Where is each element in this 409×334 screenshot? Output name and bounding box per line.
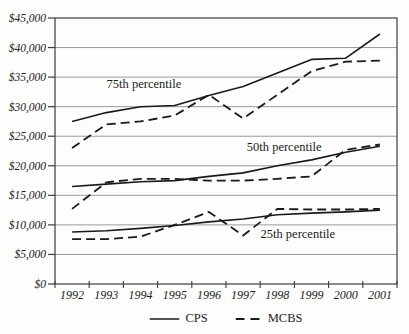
x-tick-label: 1995 — [163, 288, 187, 303]
y-tick-label: $20,000 — [9, 160, 46, 172]
x-tick-label: 1998 — [265, 288, 289, 303]
legend: CPS MCBS — [150, 311, 303, 326]
x-tick-label: 1997 — [231, 288, 255, 303]
mcbs-dashed-line-swatch — [236, 315, 262, 323]
cps-solid-line-swatch — [150, 315, 180, 323]
x-tick-label: 2001 — [368, 288, 392, 303]
y-tick-label: $15,000 — [9, 189, 46, 201]
income-percentile-chart: $0$5,000$10,000$15,000$20,000$25,000$30,… — [0, 0, 409, 334]
legend-mcbs-label: MCBS — [268, 311, 303, 326]
cps-50th-line — [72, 146, 380, 186]
25th-percentile-label: 25th percentile — [261, 227, 336, 242]
x-tick-label: 1999 — [300, 288, 324, 303]
y-tick-label: $30,000 — [9, 101, 46, 113]
plot-area — [0, 0, 409, 334]
mcbs-75th-line — [72, 61, 380, 148]
x-tick-label: 2000 — [334, 288, 358, 303]
x-tick-label: 1994 — [129, 288, 153, 303]
y-tick-label: $35,000 — [9, 71, 46, 83]
y-tick-label: $40,000 — [9, 42, 46, 54]
x-tick-label: 1993 — [94, 288, 118, 303]
legend-cps-label: CPS — [186, 311, 208, 326]
50th-percentile-label: 50th percentile — [247, 140, 322, 155]
x-tick-label: 1992 — [60, 288, 84, 303]
y-tick-label: $10,000 — [9, 219, 46, 231]
legend-item-cps: CPS — [150, 311, 208, 326]
y-tick-label: $0 — [35, 278, 47, 290]
75th-percentile-label: 75th percentile — [107, 76, 182, 91]
y-tick-label: $45,000 — [9, 12, 46, 24]
y-tick-label: $5,000 — [14, 248, 46, 260]
x-tick-label: 1996 — [197, 288, 221, 303]
legend-item-mcbs: MCBS — [236, 311, 303, 326]
y-tick-label: $25,000 — [9, 130, 46, 142]
